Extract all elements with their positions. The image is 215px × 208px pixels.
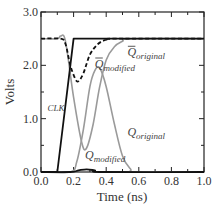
y-tick-label: 3.0: [23, 5, 38, 19]
x-tick-label: 0.8: [164, 174, 179, 188]
x-tick-label: 0.6: [131, 174, 146, 188]
annotation-clk: CLK: [48, 103, 66, 113]
y-tick-label: 0.0: [23, 165, 38, 179]
annotation-qbar-modified: Qmodified: [95, 57, 136, 73]
x-tick-label: 0.4: [99, 174, 114, 188]
series-q-modified: [41, 38, 204, 81]
x-axis-label: Time (ns): [97, 189, 147, 204]
chart: 0.00.20.40.60.81.00.01.02.03.0 CLKQmodif…: [0, 0, 215, 208]
series-clk: [41, 39, 204, 172]
svg-text:Qmodified: Qmodified: [85, 148, 126, 164]
plot-frame: [41, 12, 204, 172]
series-group: [41, 35, 204, 173]
x-tick-label: 0.2: [66, 174, 81, 188]
annotation-qbar-original: Qoriginal: [127, 45, 165, 61]
y-tick-label: 1.0: [23, 112, 38, 126]
y-axis-label: Volts: [2, 79, 17, 106]
y-tick-label: 2.0: [23, 58, 38, 72]
svg-text:Qoriginal: Qoriginal: [127, 45, 165, 61]
svg-text:Qoriginal: Qoriginal: [127, 125, 165, 141]
svg-text:Qmodified: Qmodified: [95, 57, 136, 73]
x-tick-label: 1.0: [197, 174, 212, 188]
series-q-original: [41, 35, 204, 150]
annotation-q-original: Qoriginal: [127, 125, 165, 141]
annotation-q-modified: Qmodified: [85, 148, 126, 164]
